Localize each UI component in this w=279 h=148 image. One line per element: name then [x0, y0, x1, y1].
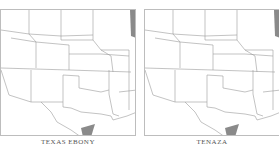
range-shading	[225, 124, 239, 136]
lake-michigan	[274, 10, 279, 38]
map-caption: TEXAS EBONY	[0, 138, 136, 146]
us-map	[1, 10, 136, 136]
lake-michigan	[130, 10, 136, 38]
range-shading	[81, 124, 95, 136]
map-panel-tenaza	[144, 9, 279, 136]
map-panel-texas-ebony	[0, 9, 136, 136]
map-caption: TENAZA	[144, 138, 279, 146]
us-map	[145, 10, 279, 136]
